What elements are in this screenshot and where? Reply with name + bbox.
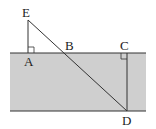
right-angle-marker-a: [28, 47, 34, 53]
label-c: C: [120, 38, 129, 53]
label-b: B: [65, 38, 74, 53]
label-d: D: [122, 113, 131, 128]
label-e: E: [22, 5, 30, 20]
geometry-diagram: E A B C D: [0, 0, 156, 129]
label-a: A: [24, 54, 34, 69]
